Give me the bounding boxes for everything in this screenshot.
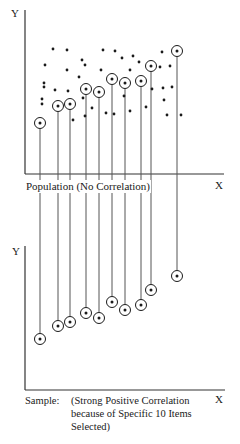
sample-points	[35, 271, 183, 345]
selected-point-dot	[150, 65, 153, 68]
sample-point-dot	[39, 338, 42, 341]
population-dot	[171, 86, 174, 89]
sample-point-dot	[150, 289, 153, 292]
selected-point-dot	[124, 82, 127, 85]
sample-caption-prefix: Sample:	[25, 395, 59, 408]
population-dot	[66, 69, 69, 72]
population-dot	[132, 55, 135, 58]
population-dot	[105, 112, 108, 115]
population-dot	[161, 51, 164, 54]
sample-point-dot	[98, 317, 101, 320]
population-dot	[121, 57, 124, 60]
population-dot	[84, 64, 87, 67]
selected-point-dot	[39, 122, 42, 125]
population-caption: Population (No Correlation)	[26, 180, 151, 193]
population-dot	[162, 87, 165, 90]
population-dot	[129, 69, 132, 72]
population-dot	[66, 49, 69, 52]
population-dot	[72, 119, 75, 122]
population-y-label: Y	[11, 7, 19, 20]
selected-point-dot	[140, 80, 143, 83]
population-dot	[54, 89, 57, 92]
sample-caption-line-1: (Strong Positive Correlation	[71, 395, 189, 408]
sample-point-dot	[69, 321, 72, 324]
correlation-diagram	[0, 0, 240, 444]
population-selected-points	[35, 46, 183, 129]
sample-caption-line-3: Selected)	[71, 421, 110, 434]
population-dot	[43, 82, 46, 85]
selected-point-dot	[176, 50, 179, 53]
population-dot	[44, 64, 47, 67]
population-dot	[163, 99, 166, 102]
sample-point-dot	[176, 275, 179, 278]
sample-x-label: X	[215, 393, 223, 406]
population-dot	[145, 106, 148, 109]
population-dot	[159, 66, 162, 69]
population-dot	[81, 59, 84, 62]
sample-point-dot	[124, 309, 127, 312]
population-dot	[67, 90, 70, 93]
sample-y-label: Y	[12, 245, 20, 258]
selected-point-dot	[57, 105, 60, 108]
population-dot	[43, 86, 46, 89]
population-dot	[169, 65, 172, 68]
population-dot	[41, 98, 44, 101]
population-dot	[78, 76, 81, 79]
population-dot	[180, 114, 183, 117]
sample-caption-line-2: because of Specific 10 Items	[71, 408, 192, 421]
population-dot	[102, 49, 105, 52]
sample-point-dot	[111, 301, 114, 304]
population-dot	[41, 103, 44, 106]
selected-point-dot	[69, 103, 72, 106]
population-dot	[52, 48, 55, 51]
population-dot	[113, 113, 116, 116]
population-dot	[91, 107, 94, 110]
population-dot	[82, 97, 85, 100]
population-dot	[84, 115, 87, 118]
population-x-label: X	[215, 179, 223, 192]
population-dot	[100, 69, 103, 72]
selected-point-dot	[85, 88, 88, 91]
population-dot	[129, 110, 132, 113]
sample-point-dot	[140, 304, 143, 307]
population-dot	[138, 61, 141, 64]
sample-point-dot	[85, 312, 88, 315]
population-dot	[114, 50, 117, 53]
selected-point-dot	[111, 78, 114, 81]
population-dot	[123, 95, 126, 98]
population-dot	[166, 114, 169, 117]
population-dot	[151, 88, 154, 91]
selected-point-dot	[98, 91, 101, 94]
sample-point-dot	[57, 325, 60, 328]
